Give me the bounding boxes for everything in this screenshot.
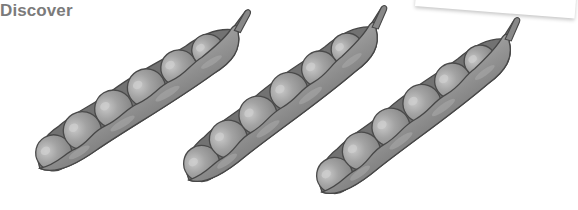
pea-pods-illustration	[0, 0, 550, 210]
